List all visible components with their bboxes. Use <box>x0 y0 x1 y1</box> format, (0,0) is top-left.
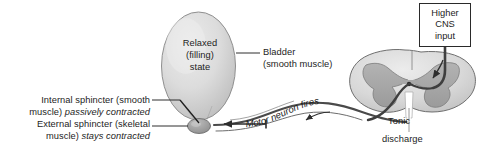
higher-cns-input-box: Higher CNS input <box>419 3 471 47</box>
bladder-state-line-1: Relaxed <box>167 37 233 49</box>
discharge-label: discharge <box>382 134 423 145</box>
higher-cns-line-1: Higher <box>431 8 458 20</box>
external-sphincter-line-1: External sphincter (skeletal <box>2 119 150 131</box>
bladder-state-label: Relaxed (filling) state <box>167 37 233 74</box>
external-sphincter-label: External sphincter (skeletal muscle) sta… <box>2 119 150 142</box>
arrow-along-nerve <box>306 112 330 120</box>
higher-cns-line-2: CNS <box>435 19 455 31</box>
spinal-cord-cross-section <box>350 49 476 118</box>
external-sphincter-line-2: muscle) stays contracted <box>2 131 150 143</box>
internal-sphincter-line-2: muscle) passively contracted <box>2 107 150 119</box>
higher-cns-line-3: input <box>435 31 455 43</box>
internal-sphincter-line-2-plain: muscle) <box>29 107 65 117</box>
bladder-callout-line-1: Bladder <box>263 47 332 59</box>
micturition-reflex-diagram: Motor neuron fires Relaxed (filling) sta… <box>0 0 480 163</box>
internal-sphincter-label: Internal sphincter (smooth muscle) passi… <box>2 95 150 118</box>
tonic-label: Tonic <box>388 116 410 127</box>
internal-sphincter-line-2-italic: passively contracted <box>65 107 150 117</box>
bladder-state-line-3: state <box>167 61 233 73</box>
external-sphincter-line-2-plain: muscle) <box>46 131 82 141</box>
internal-sphincter-line-1: Internal sphincter (smooth <box>2 95 150 107</box>
external-sphincter-line-2-italic: stays contracted <box>82 131 151 141</box>
bladder-callout-label: Bladder (smooth muscle) <box>263 47 332 70</box>
bladder-callout-line-2: (smooth muscle) <box>263 59 332 71</box>
bladder-state-line-2: (filling) <box>167 49 233 61</box>
